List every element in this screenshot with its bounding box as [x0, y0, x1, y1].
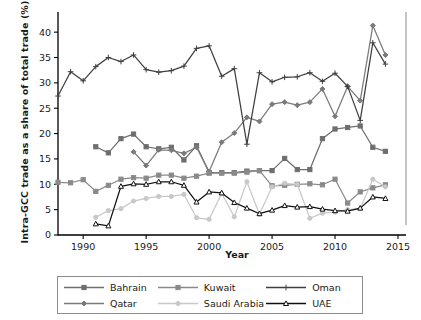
legend-label: Saudi Arabia: [204, 298, 264, 309]
legend-item-saudi-arabia[interactable]: Saudi Arabia: [156, 298, 264, 309]
data-point-marker: [182, 158, 186, 162]
data-point-marker: [219, 73, 225, 79]
data-point-marker: [156, 179, 161, 184]
data-point-marker: [244, 141, 250, 147]
data-point-marker: [156, 69, 162, 75]
data-point-marker: [56, 180, 60, 184]
data-point-marker: [371, 145, 375, 149]
data-point-marker: [232, 171, 236, 175]
data-point-marker: [207, 171, 211, 175]
data-point-marker: [244, 206, 249, 211]
legend-item-uae[interactable]: UAE: [264, 298, 358, 309]
y-tick-label: 30: [39, 77, 51, 88]
data-point-marker: [169, 68, 175, 74]
data-point-marker: [358, 190, 362, 194]
legend-swatch-kuwait: [156, 282, 200, 293]
legend-swatch-oman: [264, 282, 308, 293]
data-point-marker: [206, 43, 212, 49]
data-point-marker: [119, 177, 123, 181]
data-point-marker: [282, 74, 288, 80]
data-point-marker: [94, 215, 98, 219]
data-point-marker: [181, 151, 186, 156]
legend-item-bahrain[interactable]: Bahrain: [62, 282, 156, 293]
data-point-marker: [119, 207, 123, 211]
data-point-marker: [333, 127, 337, 131]
data-point-marker: [157, 194, 161, 198]
legend-item-qatar[interactable]: Qatar: [62, 298, 156, 309]
y-tick-label: 10: [39, 179, 51, 190]
data-point-marker: [231, 66, 237, 72]
x-tick-label: 1990: [71, 241, 95, 252]
data-point-marker: [257, 168, 261, 172]
data-point-marker: [295, 103, 300, 108]
x-tick-label: 2000: [197, 241, 221, 252]
chart-legend: BahrainKuwaitOmanQatarSaudi ArabiaUAE: [57, 276, 363, 314]
x-axis-title: Year: [224, 249, 249, 260]
y-tick-label: 15: [39, 153, 51, 164]
data-point-marker: [383, 61, 389, 67]
data-point-marker: [383, 149, 387, 153]
chart-svg: 0510152025303540199019952000200520102015…: [0, 0, 421, 265]
data-point-marker: [270, 185, 274, 189]
data-point-marker: [232, 215, 236, 219]
series-line: [96, 126, 386, 173]
data-point-marker: [106, 151, 110, 155]
data-point-marker: [144, 145, 148, 149]
data-point-marker: [308, 167, 312, 171]
data-point-marker: [176, 285, 180, 289]
data-point-marker: [283, 181, 287, 185]
data-point-marker: [194, 174, 198, 178]
data-point-marker: [371, 177, 375, 181]
series-line: [96, 182, 386, 226]
data-point-marker: [307, 204, 312, 209]
data-point-marker: [131, 132, 135, 136]
legend-label: UAE: [312, 298, 331, 309]
y-tick-label: 20: [39, 128, 51, 139]
data-point-marker: [283, 156, 287, 160]
legend-swatch-qatar: [62, 298, 106, 309]
legend-item-oman[interactable]: Oman: [264, 282, 358, 293]
data-point-marker: [118, 59, 124, 65]
data-point-marker: [94, 189, 98, 193]
data-point-marker: [282, 100, 287, 105]
y-tick-label: 25: [39, 103, 51, 114]
legend-label: Qatar: [110, 298, 137, 309]
series-group: [55, 23, 388, 228]
data-point-marker: [94, 145, 98, 149]
series-qatar: [131, 23, 388, 174]
data-point-marker: [270, 168, 274, 172]
data-point-marker: [169, 179, 174, 184]
data-point-marker: [320, 211, 324, 215]
data-point-marker: [358, 124, 362, 128]
data-point-marker: [118, 184, 123, 189]
data-point-marker: [219, 190, 224, 195]
data-point-marker: [181, 183, 186, 188]
data-point-marker: [295, 182, 299, 186]
data-point-marker: [308, 216, 312, 220]
data-point-marker: [220, 171, 224, 175]
data-point-marker: [294, 74, 300, 80]
data-point-marker: [295, 205, 300, 210]
data-point-marker: [346, 125, 350, 129]
x-tick-label: 2015: [386, 241, 410, 252]
data-point-marker: [283, 284, 289, 290]
data-point-marker: [383, 52, 388, 57]
data-point-marker: [82, 285, 86, 289]
data-point-marker: [370, 194, 375, 199]
data-point-marker: [131, 199, 135, 203]
data-point-marker: [383, 185, 387, 189]
data-point-marker: [182, 192, 186, 196]
data-point-marker: [131, 176, 135, 180]
data-point-marker: [55, 93, 61, 99]
data-point-marker: [176, 301, 180, 305]
data-point-marker: [182, 176, 186, 180]
data-point-marker: [333, 114, 338, 119]
data-point-marker: [157, 173, 161, 177]
data-point-marker: [82, 301, 87, 306]
data-point-marker: [131, 181, 136, 186]
data-point-marker: [169, 194, 173, 198]
axes-group: [54, 12, 406, 239]
legend-item-kuwait[interactable]: Kuwait: [156, 282, 264, 293]
x-tick-label: 1995: [134, 241, 158, 252]
data-point-marker: [320, 183, 324, 187]
